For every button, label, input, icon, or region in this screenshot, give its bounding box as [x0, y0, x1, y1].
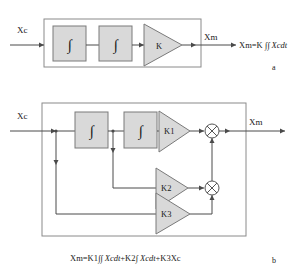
- panel-b-letter: b: [272, 256, 276, 265]
- panel-b-k1-output-arrow: [199, 129, 204, 134]
- panel-a-gain-k: [144, 24, 182, 66]
- panel-b-equation-p5: +K3Xc: [156, 253, 181, 263]
- panel-b-output-arrow: [280, 129, 285, 134]
- panel-a-output-arrow: [231, 43, 236, 48]
- panel-b-gain-k3-label: K3: [161, 209, 171, 219]
- block-diagram-figure: ∫ ∫ K Xc Xm Xm=K ∫∫ Xcdt a: [0, 0, 297, 277]
- panel-a-input-label: Xc: [17, 25, 28, 35]
- panel-b-equation-p3: +K2: [120, 253, 135, 263]
- panel-b-equation-p2: Xcdt: [103, 253, 121, 263]
- panel-b-equation: Xm=K1∫∫ Xcdt+K2∫ Xcdt+K3Xc: [70, 253, 181, 264]
- diagram-canvas: ∫ ∫ K Xc Xm Xm=K ∫∫ Xcdt a: [0, 0, 297, 277]
- panel-b-k3-riser-arrow: [210, 195, 215, 200]
- panel-a-equation: Xm=K ∫∫ Xcdt: [239, 40, 288, 51]
- panel-b-input-label: Xc: [17, 111, 28, 121]
- panel-a-output-label: Xm: [204, 32, 218, 42]
- panel-b-gain-k1-label: K1: [164, 126, 174, 136]
- panel-a-output-arrow-inner: [191, 43, 196, 48]
- panel-b-multiplier-link-arrow: [210, 138, 215, 143]
- panel-a-gain-input-arrow: [139, 43, 144, 48]
- panel-b-equation-p4: Xcdt: [138, 253, 156, 263]
- panel-b-k2-tap-arrow: [111, 148, 116, 153]
- panel-b-output-label: Xm: [249, 117, 263, 127]
- panel-a-equation-head: Xm=K: [239, 40, 265, 50]
- panel-b-gain-k2-label: K2: [161, 183, 171, 193]
- panel-b-k2-output-arrow: [199, 186, 204, 191]
- panel-b-k3-tap-arrow: [54, 160, 59, 165]
- panel-a-letter: a: [272, 63, 276, 72]
- panel-a-equation-tail: Xcdt: [269, 40, 287, 50]
- panel-a-input-arrow: [39, 43, 44, 48]
- panel-a-gain-k-label: K: [156, 41, 163, 51]
- panel-b-equation-p1: Xm=K1: [70, 253, 98, 263]
- panel-b-output-arrow-inner: [225, 129, 230, 134]
